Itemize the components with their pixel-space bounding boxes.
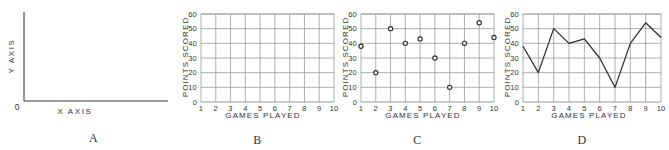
panel-d-data-series (523, 23, 661, 88)
panel-d-line-chart: 0102030405060 12345678910 GAMES PLAYED P… (495, 0, 669, 150)
x-tick-label: 8 (462, 104, 466, 113)
panel-a-axis-lines (24, 12, 168, 101)
x-tick-label: 9 (477, 104, 481, 113)
panel-c-svg: 0102030405060 12345678910 GAMES PLAYED P… (335, 0, 500, 130)
y-axis-title: POINTS SCORED (341, 17, 350, 98)
y-tick-label: 0 (353, 98, 357, 107)
data-point-marker (462, 41, 466, 45)
x-tick-label: 1 (359, 104, 363, 113)
y-axis-label: Y AXIS (7, 39, 16, 74)
data-point-marker (388, 27, 392, 31)
panel-a-svg: 0 X AXIS Y AXIS (0, 0, 175, 130)
x-tick-label: 8 (628, 104, 632, 113)
x-axis-title: GAMES PLAYED (225, 111, 300, 120)
x-tick-label: 8 (302, 104, 306, 113)
panel-d-svg: 0102030405060 12345678910 GAMES PLAYED P… (495, 0, 669, 130)
data-point-marker (359, 44, 363, 48)
data-point-marker (477, 21, 481, 25)
figure-panel-row: 0 X AXIS Y AXIS A 0102030405060 12345678… (0, 0, 669, 150)
panel-b-empty-grid-chart: 0102030405060 12345678910 GAMES PLAYED P… (175, 0, 340, 150)
x-tick-label: 1 (199, 104, 203, 113)
y-axis-title: POINTS SCORED (181, 17, 190, 98)
x-tick-label: 10 (657, 104, 666, 113)
panel-b-caption: B (175, 133, 340, 148)
x-tick-label: 9 (643, 104, 647, 113)
data-point-marker (403, 41, 407, 45)
origin-label: 0 (15, 102, 20, 112)
x-tick-label: 2 (214, 104, 218, 113)
data-line (523, 23, 661, 88)
x-axis-title: GAMES PLAYED (385, 111, 460, 120)
panel-d-caption: D (495, 133, 669, 148)
x-tick-label: 2 (374, 104, 378, 113)
x-tick-label: 2 (536, 104, 540, 113)
panel-c-scatter-chart: 0102030405060 12345678910 GAMES PLAYED P… (335, 0, 500, 150)
panel-c-y-gridlines (361, 14, 494, 102)
panel-c-data-series (359, 21, 496, 90)
x-tick-label: 1 (521, 104, 525, 113)
x-axis-title: GAMES PLAYED (551, 111, 626, 120)
panel-c-caption: C (335, 133, 500, 148)
y-tick-label: 0 (515, 98, 519, 107)
panel-a-axes-diagram: 0 X AXIS Y AXIS A (0, 0, 175, 150)
data-point-marker (433, 56, 437, 60)
data-point-marker (418, 37, 422, 41)
y-axis-title: POINTS SCORED (503, 17, 512, 98)
x-tick-label: 9 (317, 104, 321, 113)
y-tick-label: 0 (193, 98, 197, 107)
x-axis-label: X AXIS (58, 107, 93, 116)
data-point-marker (448, 85, 452, 89)
panel-a-caption: A (0, 131, 181, 146)
data-point-marker (374, 71, 378, 75)
panel-b-svg: 0102030405060 12345678910 GAMES PLAYED P… (175, 0, 340, 130)
panel-b-y-gridlines (201, 14, 334, 102)
